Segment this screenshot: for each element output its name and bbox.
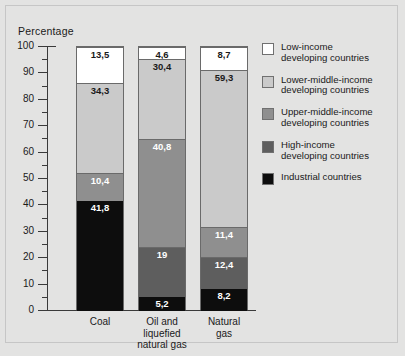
bar-segment: 59,3	[201, 70, 247, 227]
bar-segment-value: 8,7	[201, 49, 247, 60]
category-label-line: gas	[178, 328, 270, 340]
y-tick-minor	[42, 244, 47, 245]
category-label: Naturalgas	[178, 316, 270, 339]
bar-segment-value: 19	[139, 249, 185, 260]
y-tick-major	[38, 72, 47, 73]
y-tick-minor	[42, 138, 47, 139]
bar-segment-value: 30,4	[139, 61, 185, 72]
bar-segment: 8,7	[201, 47, 247, 70]
y-tick-minor	[42, 86, 47, 87]
bar-segment-value: 40,8	[139, 141, 185, 152]
chart-figure: Percentage 0102030405060708090100 13,534…	[0, 0, 405, 356]
y-tick-minor	[42, 297, 47, 298]
bar-segment: 4,6	[139, 47, 185, 59]
legend-label: High-incomedeveloping countries	[281, 140, 369, 162]
bar-segment-value: 13,5	[77, 49, 123, 60]
bar-segment: 5,2	[139, 297, 185, 311]
bar-segment-value: 5,2	[139, 298, 185, 309]
bar-segment: 41,8	[77, 201, 123, 311]
bar-segment-value: 8,2	[201, 290, 247, 301]
bar-segment: 30,4	[139, 59, 185, 139]
y-tick-label: 70	[4, 119, 34, 130]
legend-label-line2: developing countries	[281, 85, 373, 96]
bar-segment: 19	[139, 247, 185, 297]
bar-segment: 40,8	[139, 139, 185, 247]
bar-segment: 34,3	[77, 83, 123, 174]
legend-item: Industrial countries	[262, 172, 402, 185]
y-tick-major	[38, 257, 47, 258]
legend-label-line2: developing countries	[281, 118, 373, 129]
legend-label: Industrial countries	[281, 172, 362, 183]
bar-segment-value: 11,4	[201, 229, 247, 240]
legend-label-line2: developing countries	[281, 53, 369, 64]
y-tick-minor	[42, 218, 47, 219]
y-tick-major	[38, 284, 47, 285]
legend-swatch-icon	[262, 43, 274, 55]
y-tick-major	[38, 99, 47, 100]
bar-segment-value: 12,4	[201, 259, 247, 270]
bar-segment: 10,4	[77, 173, 123, 200]
bar-segment-value: 59,3	[201, 72, 247, 83]
bar-segment-value: 10,4	[77, 175, 123, 186]
y-axis-line	[47, 46, 48, 311]
legend-swatch-icon	[262, 76, 274, 88]
y-tick-label: 100	[4, 40, 34, 51]
y-tick-label: 20	[4, 251, 34, 262]
y-tick-label: 60	[4, 146, 34, 157]
bar-segment: 12,4	[201, 257, 247, 290]
y-tick-minor	[42, 165, 47, 166]
legend-label-line1: Industrial countries	[281, 172, 362, 183]
y-tick-minor	[42, 112, 47, 113]
stacked-bar: 13,534,310,441,8	[76, 46, 124, 310]
bar-segment: 13,5	[77, 47, 123, 83]
y-tick-label: 30	[4, 225, 34, 236]
category-label-line: Natural	[178, 316, 270, 328]
y-tick-label: 40	[4, 198, 34, 209]
bar-segment-value: 41,8	[77, 202, 123, 213]
y-tick-label: 80	[4, 93, 34, 104]
legend-label: Upper-middle-incomedeveloping countries	[281, 107, 373, 129]
y-tick-minor	[42, 191, 47, 192]
y-tick-major	[38, 152, 47, 153]
legend-label: Low-incomedeveloping countries	[281, 42, 369, 64]
y-tick-label: 10	[4, 278, 34, 289]
legend-item: Lower-middle-incomedeveloping countries	[262, 75, 402, 97]
legend-label: Lower-middle-incomedeveloping countries	[281, 75, 373, 97]
bar-segment-value: 34,3	[77, 85, 123, 96]
bar-segment: 11,4	[201, 227, 247, 257]
bar-segment: 8,2	[201, 289, 247, 311]
legend-label-line2: developing countries	[281, 151, 369, 162]
y-tick-major	[38, 125, 47, 126]
y-tick-label: 90	[4, 66, 34, 77]
category-label-line: natural gas	[116, 339, 208, 351]
y-tick-major	[38, 231, 47, 232]
stacked-bar: 8,759,311,412,48,2	[200, 46, 248, 310]
y-tick-minor	[42, 270, 47, 271]
legend-swatch-icon	[262, 108, 274, 120]
y-tick-minor	[42, 59, 47, 60]
y-tick-major	[38, 204, 47, 205]
legend-swatch-icon	[262, 141, 274, 153]
y-tick-major	[38, 46, 47, 47]
y-tick-label: 50	[4, 172, 34, 183]
legend-label-line1: High-income	[281, 140, 369, 151]
chart-legend: Low-incomedeveloping countriesLower-midd…	[262, 42, 402, 196]
legend-item: High-incomedeveloping countries	[262, 140, 402, 162]
legend-item: Upper-middle-incomedeveloping countries	[262, 107, 402, 129]
y-tick-major	[38, 178, 47, 179]
y-axis-top-cap	[47, 46, 56, 47]
legend-swatch-icon	[262, 173, 274, 185]
stacked-bar: 4,630,440,8195,2	[138, 46, 186, 310]
legend-item: Low-incomedeveloping countries	[262, 42, 402, 64]
y-tick-major	[38, 310, 47, 311]
y-tick-label: 0	[4, 304, 34, 315]
